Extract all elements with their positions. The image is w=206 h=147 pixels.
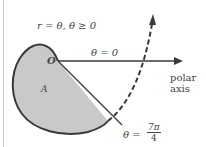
end-angle-numerator: 7π [147,122,161,133]
end-angle-prefix: θ = [123,130,141,140]
origin-label: O [47,56,56,66]
end-angle-fraction: 7π 4 [147,122,161,143]
polar-axis-label-line1: polar [170,73,196,83]
curve-equation-label: r = θ, θ ≥ 0 [37,21,96,31]
spiral-curve-dashed [108,24,152,121]
ray-zero-label: θ = 0 [91,48,118,58]
spiral-arrowhead-icon [149,14,156,25]
polar-axis-arrowhead-icon [174,57,183,65]
region-a-label: A [41,85,48,94]
end-angle-denominator: 4 [147,133,161,143]
polar-axis-label-line2: axis [170,84,190,94]
